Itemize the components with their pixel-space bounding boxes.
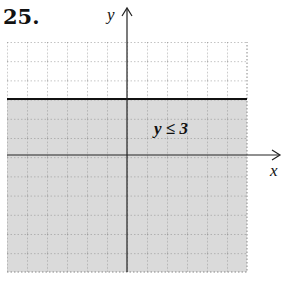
inequality-annotation: y ≤ 3 bbox=[152, 119, 188, 138]
inequality-graph: x y y ≤ 3 bbox=[0, 0, 288, 282]
x-axis-label: x bbox=[269, 161, 278, 180]
y-axis-label: y bbox=[105, 5, 115, 24]
